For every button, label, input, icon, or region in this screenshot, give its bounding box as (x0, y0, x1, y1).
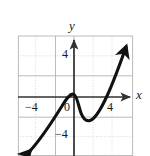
x-tick-label-negative-4: −4 (25, 101, 38, 113)
y-tick-label-negative-4: −4 (55, 128, 68, 140)
origin-label: 0 (64, 101, 70, 113)
y-tick-label-4: 4 (62, 48, 68, 60)
coordinate-plane-svg (0, 0, 150, 156)
graph-figure: y x 4 −4 −4 0 4 (0, 0, 150, 156)
x-tick-label-4: 4 (107, 101, 113, 113)
y-axis-label: y (69, 19, 75, 32)
x-axis-label: x (136, 88, 142, 101)
